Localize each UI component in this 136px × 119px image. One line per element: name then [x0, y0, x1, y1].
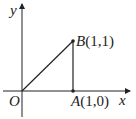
origin-label: O — [9, 93, 20, 109]
segment-ob — [22, 41, 73, 91]
coordinate-diagram: y x O B(1,1) A(1,0) — [0, 0, 136, 119]
y-axis-label: y — [8, 2, 17, 18]
x-axis-label: x — [118, 92, 126, 108]
point-a-label: A(1,0) — [70, 93, 109, 110]
point-b-dot — [71, 39, 75, 43]
point-b-label: B(1,1) — [76, 33, 114, 50]
